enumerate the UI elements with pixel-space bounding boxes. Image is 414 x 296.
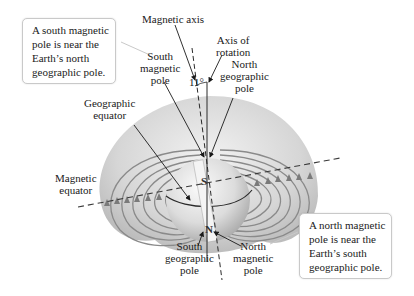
label-south-geographic-pole: South geographic pole	[165, 240, 214, 276]
label-axis-of-rotation: Axis of rotation	[216, 34, 250, 58]
globe-letter-n: N	[205, 223, 213, 235]
label-geographic-equator: Geographic equator	[84, 97, 135, 121]
label-magnetic-axis: Magnetic axis	[142, 13, 204, 25]
label-north-magnetic-pole: North magnetic pole	[233, 240, 273, 276]
label-magnetic-equator: Magnetic equator	[55, 172, 97, 196]
label-south-magnetic-pole: South magnetic pole	[140, 50, 180, 86]
globe-letter-s: S	[201, 175, 207, 187]
callout-south-magnetic-pole: A south magnetic pole is near the Earth’…	[22, 18, 116, 84]
callout-north-magnetic-pole: A north magnetic pole is near the Earth’…	[299, 213, 392, 279]
angle-label: 11°	[189, 76, 204, 88]
label-north-geographic-pole: North geographic pole	[220, 58, 269, 94]
